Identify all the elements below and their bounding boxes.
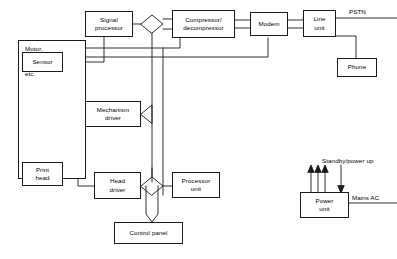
arrow-junction-mechanism [141, 105, 152, 123]
label-pstn: PSTN [349, 8, 366, 16]
compressor-line-2: decompressor [183, 24, 223, 32]
block-mechanism-driver: Mechanism driver [85, 101, 141, 127]
block-processor-unit: Processor unit [172, 172, 220, 198]
signal-processor-line-1: Signal [95, 16, 123, 24]
print-head-line-1: Print [35, 166, 49, 174]
modem-label: Modem [258, 20, 279, 28]
bowtie-junction-top [141, 15, 163, 33]
mechanism-driver-line-2: driver [97, 114, 130, 122]
block-compressor-decompressor: Compressor/ decompressor [172, 10, 235, 38]
block-line-unit: Line unit [303, 10, 336, 37]
block-sensor: Sensor [22, 52, 63, 72]
line-unit-line-2: unit [313, 24, 325, 32]
compressor-line-1: Compressor/ [183, 16, 223, 24]
wire-lineunit-to-phone [336, 36, 356, 58]
block-print-head: Print head [22, 162, 63, 186]
block-head-driver: Head driver [94, 172, 141, 199]
block-modem: Modem [250, 12, 288, 36]
print-head-line-2: head [35, 174, 49, 182]
processor-unit-line-2: unit [182, 185, 211, 193]
phone-label: Phone [348, 63, 366, 71]
processor-unit-line-1: Processor [182, 177, 211, 185]
block-phone: Phone [337, 58, 377, 77]
arrowhead-power-2 [315, 165, 321, 172]
arrowhead-power-3 [322, 165, 328, 172]
head-driver-line-1: Head [109, 177, 125, 185]
head-driver-line-2: driver [109, 186, 125, 194]
label-standby-power-up: Standby/power up [322, 157, 373, 165]
block-control-panel: Control panel [114, 222, 183, 244]
signal-processor-line-2: processor [95, 24, 123, 32]
block-power-unit: Power unit [300, 192, 349, 218]
arrowhead-power-1 [308, 165, 314, 172]
power-unit-line-1: Power [315, 197, 333, 205]
mechanism-driver-line-1: Mechanism [97, 106, 130, 114]
power-unit-line-2: unit [315, 205, 333, 213]
block-signal-processor: Signal processor [85, 11, 133, 37]
sensor-label: Sensor [32, 58, 52, 66]
label-mains-ac: Mains AC [352, 194, 379, 202]
line-unit-line-1: Line [313, 15, 325, 23]
block-diagram: Motor, lamps, cutter etc. Sensor Print h… [0, 0, 397, 259]
control-panel-label: Control panel [129, 229, 167, 237]
